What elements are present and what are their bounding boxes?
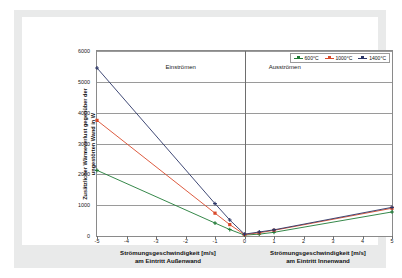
legend-label: 600°C (305, 55, 319, 61)
legend-swatch-icon (358, 58, 367, 59)
series-line (97, 68, 392, 234)
x-axis-tick-label: 1 (273, 238, 276, 244)
y-axis-tick-label: 1000 (78, 202, 90, 208)
legend-item[interactable]: 1000°C (325, 55, 353, 61)
legend-label: 1000°C (336, 55, 353, 61)
y-axis-tick-label: 0 (87, 233, 90, 239)
legend-swatch-icon (294, 58, 303, 59)
screenshot-root: 0100020003000400050006000 -5-4-3-2-10123… (0, 0, 402, 278)
chart-legend: 600°C1000°C1400°C (290, 53, 390, 63)
x-axis-tick-label: -5 (95, 238, 100, 244)
figure-page: 0100020003000400050006000 -5-4-3-2-10123… (22, 17, 378, 245)
legend-item[interactable]: 1400°C (358, 55, 386, 61)
series-line (97, 170, 392, 235)
data-point-marker (213, 221, 217, 225)
series-line (97, 120, 392, 234)
x-axis-title-right: Strömungsgeschwindigkeit [m/s] am Eintri… (243, 249, 393, 266)
x-axis-tick-label: 3 (332, 238, 335, 244)
data-point-marker (228, 223, 231, 226)
series-1400C (95, 66, 394, 236)
series-1000C (95, 119, 393, 236)
x-axis-title-left: Strömungsgeschwindigkeit [m/s] am Eintri… (93, 249, 243, 266)
x-axis-tick-label: -3 (154, 238, 159, 244)
y-axis-title-line1: Zusätzlicher Wärmeverlust gegenüber der (81, 88, 89, 200)
annotation-ausstroemen: Ausströmen (269, 64, 301, 70)
x-axis-tick-label: 4 (361, 238, 364, 244)
x-axis-title-right-line2: am Eintritt Innenwand (243, 257, 393, 265)
legend-label: 1400°C (369, 55, 386, 61)
series-group (97, 51, 392, 236)
x-axis-tick-label: -4 (124, 238, 129, 244)
y-axis-tick-label: 5000 (78, 79, 90, 85)
x-axis-tick-label: -1 (213, 238, 218, 244)
x-axis-title-right-line1: Strömungsgeschwindigkeit [m/s] (243, 249, 393, 257)
data-point-marker (390, 210, 394, 214)
y-axis-tick-label: 6000 (78, 48, 90, 54)
x-axis-tick-label: 5 (391, 238, 394, 244)
data-point-marker (213, 212, 216, 215)
x-axis-tick-label: -2 (183, 238, 188, 244)
chart-plot-area: 0100020003000400050006000 -5-4-3-2-10123… (96, 50, 393, 237)
x-axis-title-left-line2: am Eintritt Außenwand (93, 257, 243, 265)
x-axis-title-left-line1: Strömungsgeschwindigkeit [m/s] (93, 249, 243, 257)
y-axis-title: Zusätzlicher Wärmeverlust gegenüber der … (81, 88, 97, 200)
y-axis-title-line2: ungestörten Wand in W (89, 88, 97, 200)
legend-swatch-icon (325, 58, 334, 59)
series-600C (95, 168, 394, 237)
annotation-einstroemen: Einströmen (166, 64, 196, 70)
x-axis-tick-label: 0 (243, 238, 246, 244)
x-axis-tick-label: 2 (302, 238, 305, 244)
data-point-marker (228, 228, 232, 232)
legend-item[interactable]: 600°C (294, 55, 319, 61)
